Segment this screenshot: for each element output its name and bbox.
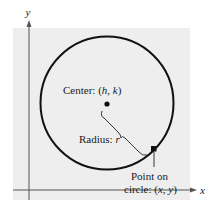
point-label-line2: circle: (x, y) (124, 183, 177, 196)
y-axis-arrow-icon (27, 20, 32, 27)
point-on-circle-marker (151, 146, 157, 152)
y-axis-label: y (25, 6, 31, 18)
radius-label: Radius: r (79, 133, 120, 145)
x-axis-label: x (199, 184, 205, 196)
center-label: Center: (h, k) (63, 84, 122, 97)
point-label-line1: Point on (131, 170, 168, 182)
circle-diagram: y x Center: (h, k) Radius: r Point on ci… (0, 0, 212, 213)
center-point (104, 101, 109, 106)
x-axis-arrow-icon (190, 188, 197, 193)
